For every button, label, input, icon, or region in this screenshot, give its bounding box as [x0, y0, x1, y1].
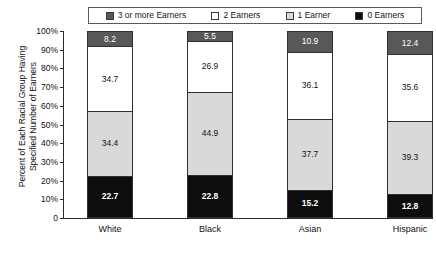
y-axis-title: Percent of Each Racial Group Having Spec… [17, 22, 38, 212]
y-axis-tick-label: 60% [41, 102, 58, 111]
y-axis-tick-label: 0 [53, 214, 58, 223]
bar-group-black[interactable]: 22.844.926.95.5Black [187, 31, 233, 218]
legend-item-label: 2 Earners [223, 11, 260, 20]
bar-segment[interactable]: 35.6 [387, 54, 433, 121]
bar-segment[interactable]: 15.2 [287, 190, 333, 218]
chart-legend: 3 or more Earners2 Earners1 Earner0 Earn… [88, 7, 422, 24]
plot-area: 010%20%30%40%50%60%70%80%90%100% 22.734.… [63, 31, 433, 219]
y-axis-tick-label: 20% [41, 176, 58, 185]
bar-segment[interactable]: 5.5 [187, 31, 233, 41]
y-axis-title-line-1: Percent of Each Racial Group Having [17, 22, 28, 212]
bar-group-asian[interactable]: 15.237.736.110.9Asian [287, 31, 333, 218]
bar-segment[interactable]: 34.7 [87, 46, 133, 111]
y-axis-tick-label: 70% [41, 83, 58, 92]
bar-group-white[interactable]: 22.734.434.78.2White [87, 31, 133, 218]
legend-item-2[interactable]: 1 Earner [286, 11, 331, 20]
legend-swatch-icon [106, 12, 114, 20]
y-axis-tick-label: 30% [41, 158, 58, 167]
y-axis-tick-label: 80% [41, 64, 58, 73]
bar-segment[interactable]: 44.9 [187, 92, 233, 176]
bar-segment[interactable]: 10.9 [287, 31, 333, 51]
x-axis-label-asian: Asian [287, 224, 333, 234]
bar-segment[interactable]: 8.2 [87, 31, 133, 46]
y-axis-tick-label: 50% [41, 120, 58, 129]
bar-segment[interactable]: 22.7 [87, 176, 133, 218]
legend-item-0[interactable]: 3 or more Earners [106, 11, 187, 20]
legend-swatch-icon [355, 12, 363, 20]
bar-segment[interactable]: 37.7 [287, 119, 333, 189]
x-axis-label-white: White [87, 224, 133, 234]
y-axis-tick-label: 10% [41, 195, 58, 204]
legend-swatch-icon [211, 12, 219, 20]
y-axis-title-line-2: Specified Number of Earners [27, 22, 38, 212]
bar-segment[interactable]: 39.3 [387, 121, 433, 194]
bar-segment[interactable]: 26.9 [187, 41, 233, 91]
legend-item-3[interactable]: 0 Earners [355, 11, 404, 20]
legend-item-1[interactable]: 2 Earners [211, 11, 260, 20]
bar-segment[interactable]: 22.8 [187, 175, 233, 218]
bar-segment[interactable]: 12.8 [387, 194, 433, 218]
x-axis-label-black: Black [187, 224, 233, 234]
bar-segment[interactable]: 36.1 [287, 52, 333, 120]
legend-swatch-icon [286, 12, 294, 20]
bar-series-container: 22.734.434.78.2White22.844.926.95.5Black… [64, 31, 433, 218]
legend-item-label: 0 Earners [367, 11, 404, 20]
y-axis-tick-label: 40% [41, 139, 58, 148]
bar-segment[interactable]: 34.4 [87, 111, 133, 175]
y-axis-tick-label: 90% [41, 45, 58, 54]
legend-item-label: 1 Earner [298, 11, 331, 20]
bar-segment[interactable]: 12.4 [387, 31, 433, 54]
legend-item-label: 3 or more Earners [118, 11, 187, 20]
y-axis-tick-label: 100% [36, 27, 58, 36]
y-axis-tick [60, 218, 64, 219]
stacked-bar-chart: 3 or more Earners2 Earners1 Earner0 Earn… [0, 0, 436, 253]
bar-group-hispanic[interactable]: 12.839.335.612.4Hispanic [387, 31, 433, 218]
x-axis-label-hispanic: Hispanic [387, 224, 433, 234]
